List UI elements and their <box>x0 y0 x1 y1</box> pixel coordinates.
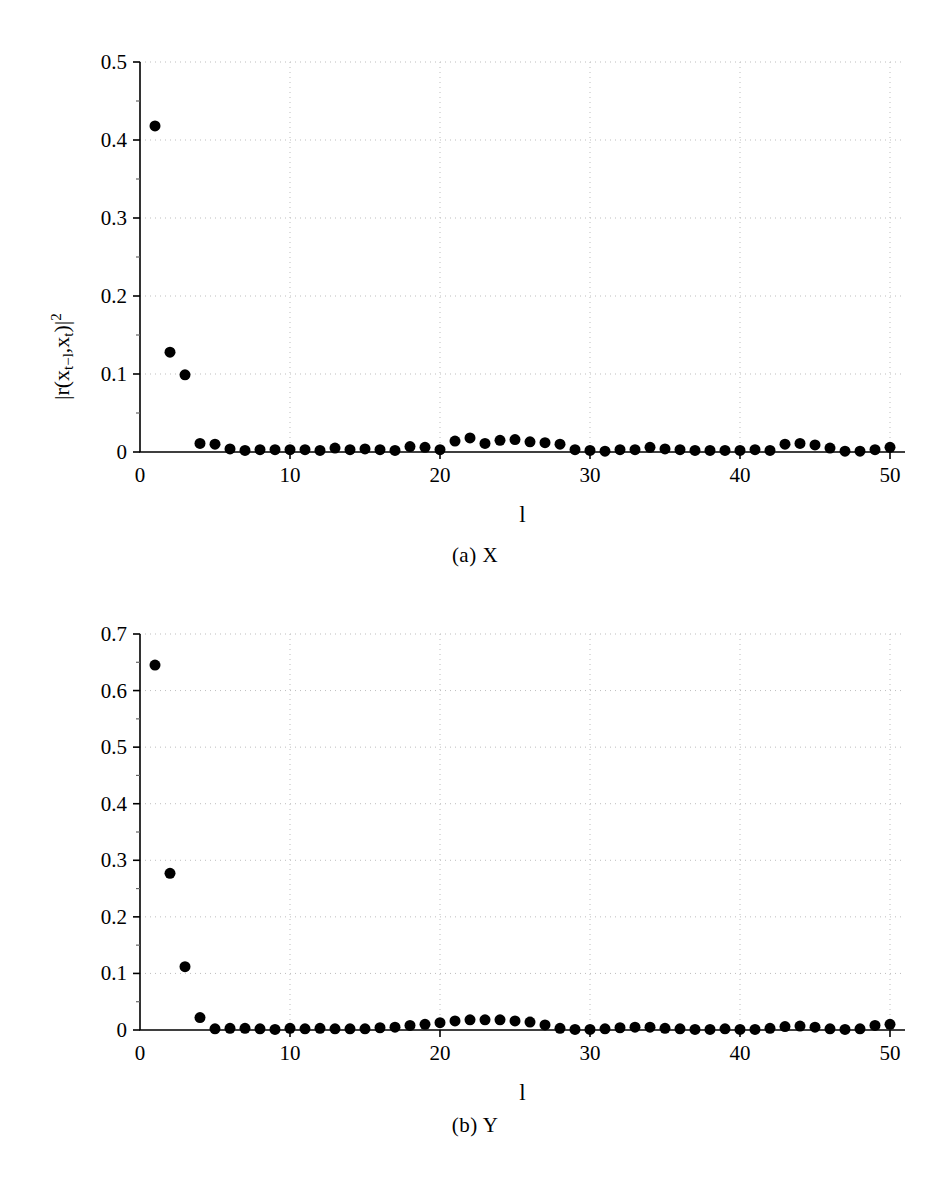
y-axis-tick-label: 0.4 <box>101 128 128 152</box>
y-axis-tick-label: 0.1 <box>101 961 127 985</box>
data-point <box>570 1024 581 1035</box>
data-point <box>510 434 521 445</box>
data-point <box>510 1015 521 1026</box>
y-axis-label-a: |r(xt−l,xt)|2 <box>48 400 135 429</box>
data-point <box>195 438 206 449</box>
data-point <box>270 444 281 455</box>
data-point <box>420 442 431 453</box>
data-point <box>870 1020 881 1031</box>
y-axis-tick-label: 0.6 <box>101 679 127 703</box>
x-axis-tick-label: 0 <box>135 463 146 487</box>
plot-b: 00.10.20.30.40.50.60.701020304050l <box>0 572 950 1112</box>
data-point <box>750 1024 761 1035</box>
data-point <box>210 1023 221 1034</box>
x-axis-tick-label: 20 <box>430 463 451 487</box>
figure-container: 00.10.20.30.40.501020304050l |r(xt−l,xt)… <box>0 0 950 1186</box>
data-point <box>345 1023 356 1034</box>
data-point <box>330 1023 341 1034</box>
data-point <box>165 347 176 358</box>
data-point <box>525 1017 536 1028</box>
data-point <box>210 439 221 450</box>
axis-spine <box>140 634 905 1030</box>
x-axis-tick-label: 0 <box>135 1041 146 1065</box>
data-point <box>300 1023 311 1034</box>
data-point <box>630 1022 641 1033</box>
data-point <box>840 446 851 457</box>
data-point <box>255 1023 266 1034</box>
data-series <box>150 660 896 1035</box>
data-series <box>150 120 896 456</box>
x-axis-tick-label: 30 <box>580 1041 601 1065</box>
panel-a-caption: (a) X <box>0 543 950 568</box>
data-point <box>585 1024 596 1035</box>
x-axis-tick-label: 30 <box>580 463 601 487</box>
data-point <box>315 445 326 456</box>
data-point <box>375 444 386 455</box>
data-point <box>480 438 491 449</box>
data-point <box>780 439 791 450</box>
y-axis-tick-label: 0.3 <box>101 848 127 872</box>
x-axis-tick-label: 20 <box>430 1041 451 1065</box>
data-point <box>540 1019 551 1030</box>
data-point <box>705 445 716 456</box>
data-point <box>330 443 341 454</box>
axis-spine <box>140 62 905 452</box>
data-point <box>810 1022 821 1033</box>
data-point <box>240 445 251 456</box>
data-point <box>720 445 731 456</box>
y-axis-tick-label: 0.2 <box>101 905 127 929</box>
data-point <box>450 1015 461 1026</box>
data-point <box>705 1024 716 1035</box>
x-axis-tick-label: 50 <box>880 463 901 487</box>
x-axis-tick-label: 50 <box>880 1041 901 1065</box>
data-point <box>465 432 476 443</box>
plot-a: 00.10.20.30.40.501020304050l <box>0 0 950 540</box>
data-point <box>645 1022 656 1033</box>
data-point <box>300 444 311 455</box>
data-point <box>675 1023 686 1034</box>
data-point <box>285 444 296 455</box>
x-axis-tick-label: 40 <box>730 463 751 487</box>
y-axis-tick-label: 0.1 <box>101 362 127 386</box>
data-point <box>285 1023 296 1034</box>
data-point <box>150 660 161 671</box>
data-point <box>360 443 371 454</box>
data-point <box>690 445 701 456</box>
data-point <box>675 444 686 455</box>
x-axis-label: l <box>519 1080 525 1105</box>
data-point <box>480 1014 491 1025</box>
y-axis-tick-label: 0.4 <box>101 792 128 816</box>
data-point <box>405 441 416 452</box>
data-point <box>615 444 626 455</box>
data-point <box>270 1024 281 1035</box>
data-point <box>750 444 761 455</box>
y-axis-tick-label: 0.3 <box>101 206 127 230</box>
data-point <box>450 436 461 447</box>
data-point <box>840 1024 851 1035</box>
data-point <box>870 444 881 455</box>
data-point <box>735 445 746 456</box>
data-point <box>180 369 191 380</box>
data-point <box>465 1014 476 1025</box>
y-axis-tick-label: 0 <box>117 1018 128 1042</box>
data-point <box>600 1023 611 1034</box>
data-point <box>405 1020 416 1031</box>
data-point <box>810 439 821 450</box>
data-point <box>585 445 596 456</box>
panel-b: 00.10.20.30.40.50.60.701020304050l |r(yt… <box>0 572 950 1186</box>
y-axis-tick-label: 0.2 <box>101 284 127 308</box>
data-point <box>885 1019 896 1030</box>
data-point <box>240 1023 251 1034</box>
data-point <box>390 445 401 456</box>
data-point <box>765 445 776 456</box>
data-point <box>720 1023 731 1034</box>
panel-a: 00.10.20.30.40.501020304050l |r(xt−l,xt)… <box>0 0 950 595</box>
data-point <box>735 1024 746 1035</box>
x-axis-tick-label: 40 <box>730 1041 751 1065</box>
data-point <box>165 868 176 879</box>
x-axis-tick-label: 10 <box>280 463 301 487</box>
data-point <box>525 436 536 447</box>
data-point <box>660 443 671 454</box>
data-point <box>855 446 866 457</box>
y-axis-tick-label: 0.7 <box>101 622 127 646</box>
